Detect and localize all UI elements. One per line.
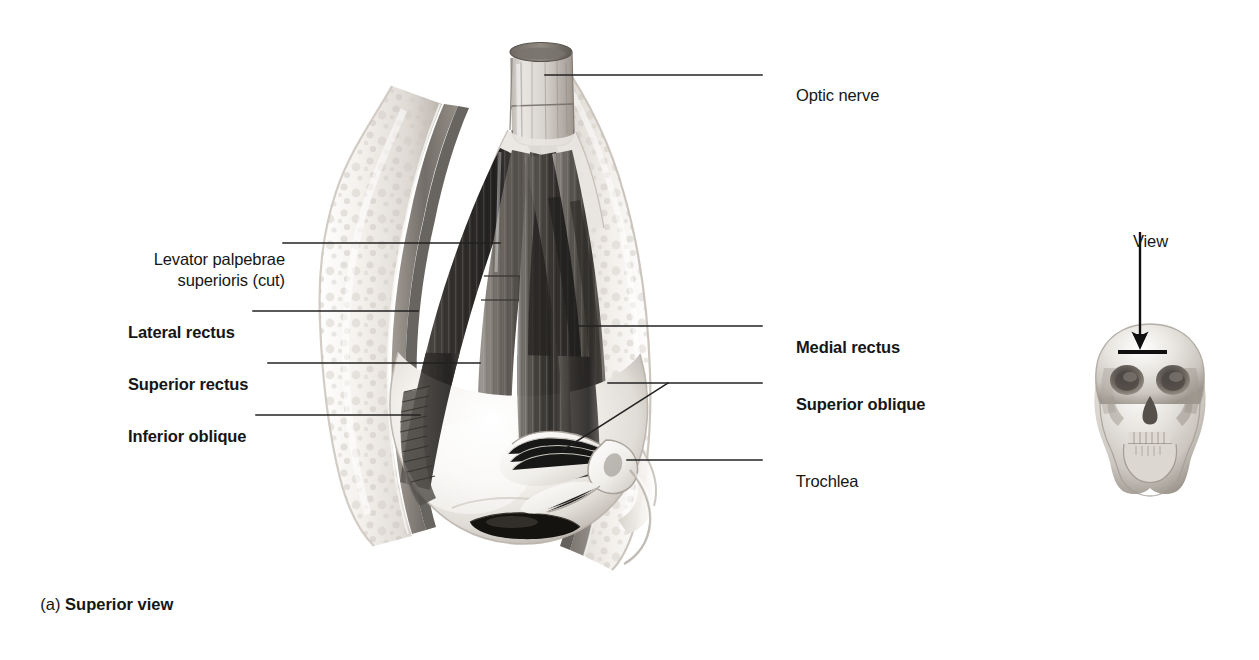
label-trochlea: Trochlea — [778, 450, 858, 513]
label-medial-rectus-text: Medial rectus — [796, 338, 900, 356]
label-optic-nerve-text: Optic nerve — [796, 86, 879, 104]
label-medial-rectus: Medial rectus — [778, 316, 900, 379]
anatomy-figure: Levator palpebrae superioris (cut) Later… — [0, 0, 1259, 660]
caption-letter: (a) — [40, 595, 65, 613]
label-superior-oblique-text: Superior oblique — [796, 395, 926, 413]
label-superior-oblique: Superior oblique — [778, 373, 925, 436]
label-view: View — [1115, 210, 1168, 273]
label-inferior-oblique: Inferior oblique — [110, 405, 246, 468]
label-superior-rectus-text: Superior rectus — [128, 375, 248, 393]
label-view-text: View — [1133, 232, 1168, 250]
label-lateral-rectus-text: Lateral rectus — [128, 323, 235, 341]
label-inferior-oblique-text: Inferior oblique — [128, 427, 246, 445]
label-levator-palpebrae-superioris-text: Levator palpebrae superioris (cut) — [154, 250, 285, 289]
label-optic-nerve: Optic nerve — [778, 64, 879, 127]
figure-caption: (a) Superior view — [22, 576, 173, 633]
caption-text: Superior view — [65, 595, 173, 613]
leader-superior-oblique-tendon — [563, 383, 668, 450]
label-trochlea-text: Trochlea — [796, 472, 859, 490]
label-levator-palpebrae-superioris: Levator palpebrae superioris (cut) — [110, 228, 285, 312]
